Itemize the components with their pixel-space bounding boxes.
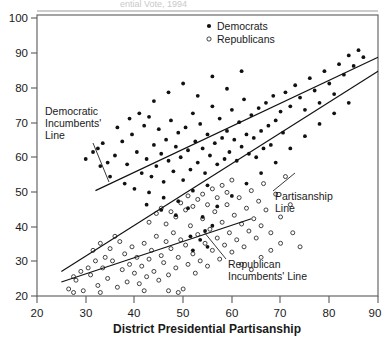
data-point-democrat (230, 194, 234, 198)
data-point-democrat (186, 148, 190, 152)
data-point-democrat (232, 138, 236, 142)
data-point-democrat (125, 162, 129, 166)
data-point-republican (174, 266, 178, 270)
data-point-democrat (318, 101, 322, 105)
data-point-democrat (264, 101, 268, 105)
legend: Democrats Republicans (207, 20, 275, 45)
y-tick-100: 100 (9, 12, 28, 24)
data-point-republican (191, 204, 195, 208)
data-point-democrat (140, 171, 144, 175)
data-point-democrat (152, 99, 156, 103)
data-point-democrat (210, 75, 214, 79)
data-point-democrat (259, 171, 263, 175)
data-point-democrat (203, 171, 207, 175)
data-point-democrat (169, 118, 173, 122)
data-point-democrat (337, 62, 341, 66)
data-point-democrat (120, 140, 124, 144)
data-point-democrat (196, 161, 200, 165)
data-point-republican (120, 268, 124, 272)
data-point-democrat (150, 175, 154, 179)
data-point-democrat (184, 126, 188, 130)
data-point-democrat (181, 82, 185, 86)
data-point-republican (269, 231, 273, 235)
legend-marker-republicans (207, 37, 211, 41)
y-tick-50: 50 (15, 186, 28, 198)
data-point-democrat (179, 155, 183, 159)
data-point-republican (154, 234, 158, 238)
data-point-republican (254, 236, 258, 240)
data-point-democrat (245, 182, 249, 186)
data-point-democrat (254, 155, 258, 159)
data-point-republican (79, 269, 83, 273)
data-point-democrat (123, 182, 127, 186)
data-point-democrat (145, 203, 149, 207)
data-point-democrat (303, 134, 307, 138)
data-point-republican (244, 206, 248, 210)
data-point-democrat (191, 248, 195, 252)
data-point-republican (128, 262, 132, 266)
x-tick-30: 30 (80, 307, 93, 319)
democrats-point-layer (84, 48, 365, 252)
data-point-democrat (313, 89, 317, 93)
rep-annot-line-1: Republican (228, 258, 281, 270)
legend-label-republicans: Republicans (217, 33, 275, 45)
data-point-republican (235, 238, 239, 242)
y-tick-60: 60 (15, 151, 28, 163)
dem-annot-line-2: Incumbents' (45, 117, 101, 129)
data-point-republican (67, 287, 71, 291)
data-point-republican (157, 278, 161, 282)
data-point-democrat (318, 122, 322, 126)
data-point-democrat (206, 245, 210, 249)
data-point-republican (298, 245, 302, 249)
x-tick-60: 60 (226, 307, 239, 319)
data-point-republican (93, 259, 97, 263)
data-point-republican (181, 287, 185, 291)
data-point-republican (167, 289, 171, 293)
part-annot-line-2: Line (275, 202, 295, 214)
data-point-democrat (228, 150, 232, 154)
data-point-republican (242, 245, 246, 249)
x-axis-tick-labels: 20 30 40 50 60 70 80 90 (31, 307, 382, 319)
data-point-democrat (220, 136, 224, 140)
data-point-democrat (159, 152, 163, 156)
data-point-republican (108, 247, 112, 251)
data-point-republican (186, 262, 190, 266)
data-point-democrat (225, 87, 229, 91)
data-point-republican (81, 289, 85, 293)
legend-label-democrats: Democrats (217, 20, 268, 32)
data-point-republican (218, 257, 222, 261)
data-point-democrat (130, 133, 134, 137)
data-point-democrat (230, 108, 234, 112)
data-point-democrat (257, 106, 261, 110)
data-point-republican (196, 197, 200, 201)
data-point-republican (230, 250, 234, 254)
data-point-democrat (361, 55, 365, 59)
data-point-democrat (113, 154, 117, 158)
data-point-republican (247, 229, 251, 233)
data-point-republican (225, 203, 229, 207)
data-point-democrat (332, 92, 336, 96)
data-point-democrat (213, 141, 217, 145)
data-point-democrat (288, 147, 292, 151)
data-point-republican (152, 269, 156, 273)
data-point-democrat (147, 190, 151, 194)
data-point-republican (252, 217, 256, 221)
data-point-republican (147, 220, 151, 224)
x-axis-ticks (37, 296, 378, 303)
data-point-democrat (274, 161, 278, 165)
data-point-democrat (279, 110, 283, 114)
data-point-democrat (323, 69, 327, 73)
data-point-democrat (215, 205, 219, 209)
data-point-democrat (271, 94, 275, 98)
data-point-republican (123, 252, 127, 256)
data-point-democrat (162, 180, 166, 184)
data-point-democrat (284, 90, 288, 94)
data-point-democrat (288, 104, 292, 108)
data-point-republican (264, 208, 268, 212)
data-point-democrat (259, 129, 263, 133)
ghost-header-text: ential Vote, 1994 (120, 0, 187, 9)
data-point-republican (118, 240, 122, 244)
data-point-democrat (308, 76, 312, 80)
data-point-republican (208, 227, 212, 231)
data-point-republican (167, 273, 171, 277)
